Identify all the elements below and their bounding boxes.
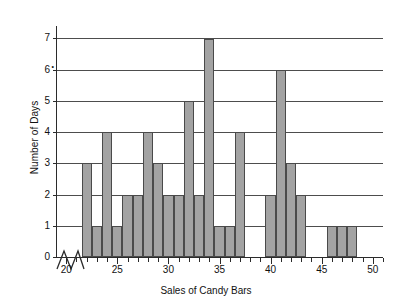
x-tick-mark bbox=[342, 258, 343, 262]
tick-artifact-dot: • bbox=[52, 62, 54, 72]
histogram-bar bbox=[174, 195, 184, 257]
x-axis-ticks: 20253035404550 bbox=[56, 258, 383, 282]
x-tick-mark bbox=[260, 258, 261, 262]
histogram-bar bbox=[296, 195, 306, 257]
x-tick-label: 20 bbox=[61, 265, 72, 275]
x-tick-label: 40 bbox=[265, 265, 276, 275]
histogram-bar bbox=[337, 226, 347, 257]
y-tick-label: 4 bbox=[44, 127, 50, 137]
x-tick-label: 50 bbox=[367, 265, 378, 275]
histogram-bar bbox=[347, 226, 357, 257]
plot-area: 0123456•7 bbox=[56, 26, 383, 258]
histogram-bar bbox=[276, 70, 286, 257]
x-tick-mark bbox=[87, 258, 88, 262]
y-axis-title: Number of Days bbox=[29, 58, 40, 218]
y-tick-label: 1 bbox=[44, 221, 50, 231]
x-tick-mark bbox=[363, 258, 364, 262]
x-tick-mark bbox=[250, 258, 251, 262]
x-tick-mark bbox=[240, 258, 241, 262]
histogram-bar bbox=[163, 195, 173, 257]
x-tick-label: 45 bbox=[316, 265, 327, 275]
x-tick-mark bbox=[138, 258, 139, 262]
histogram-chart: Number of Days 0123456•7 20253035404550 … bbox=[0, 0, 412, 307]
histogram-bar bbox=[153, 163, 163, 257]
x-tick-mark bbox=[332, 258, 333, 262]
x-tick-mark bbox=[128, 258, 129, 262]
x-tick-mark bbox=[148, 258, 149, 262]
x-tick-label: 25 bbox=[112, 265, 123, 275]
histogram-bar bbox=[327, 226, 337, 257]
x-axis-title: Sales of Candy Bars bbox=[0, 285, 412, 296]
x-tick-label: 30 bbox=[163, 265, 174, 275]
histogram-bar bbox=[143, 132, 153, 257]
x-tick-mark bbox=[291, 258, 292, 262]
x-tick-mark bbox=[107, 258, 108, 262]
x-tick-mark bbox=[179, 258, 180, 262]
x-tick-mark bbox=[383, 258, 384, 262]
y-tick-label: 3 bbox=[44, 158, 50, 168]
x-tick-mark bbox=[76, 258, 77, 262]
histogram-bar bbox=[225, 226, 235, 257]
x-tick-mark bbox=[311, 258, 312, 262]
x-tick-mark bbox=[189, 258, 190, 262]
x-tick-mark bbox=[281, 258, 282, 262]
bar-series bbox=[56, 26, 383, 257]
y-tick-label: 2 bbox=[44, 190, 50, 200]
histogram-bar bbox=[102, 132, 112, 257]
x-tick-mark bbox=[301, 258, 302, 262]
histogram-bar bbox=[122, 195, 132, 257]
histogram-bar bbox=[92, 226, 102, 257]
histogram-bar bbox=[194, 195, 204, 257]
x-tick-mark bbox=[209, 258, 210, 262]
histogram-bar bbox=[235, 132, 245, 257]
y-tick-label: 6• bbox=[44, 65, 50, 75]
histogram-bar bbox=[184, 101, 194, 257]
x-tick-label: 35 bbox=[214, 265, 225, 275]
y-tick-label: 0 bbox=[44, 252, 50, 262]
histogram-bar bbox=[133, 195, 143, 257]
x-tick-mark bbox=[352, 258, 353, 262]
x-tick-mark bbox=[97, 258, 98, 262]
x-tick-mark bbox=[199, 258, 200, 262]
y-tick-label: 7 bbox=[44, 33, 50, 43]
x-tick-mark bbox=[158, 258, 159, 262]
histogram-bar bbox=[265, 195, 275, 257]
histogram-bar bbox=[214, 226, 224, 257]
histogram-bar bbox=[112, 226, 122, 257]
y-tick-label: 5 bbox=[44, 96, 50, 106]
histogram-bar bbox=[204, 39, 214, 258]
x-tick-mark bbox=[230, 258, 231, 262]
histogram-bar bbox=[286, 163, 296, 257]
